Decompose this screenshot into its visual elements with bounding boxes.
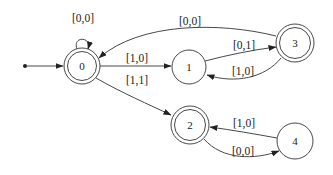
edge-label-3-1: [1,0] — [232, 65, 254, 78]
edge-label-0-2: [1,1] — [126, 74, 148, 87]
state-label-4: 4 — [292, 135, 298, 147]
edge-label-3-0: [0,0] — [179, 15, 201, 28]
edge-0-0 — [76, 39, 88, 49]
edge-label-0-0: [0,0] — [72, 12, 94, 25]
state-label-1: 1 — [186, 61, 192, 73]
state-node-2: 2 — [171, 106, 209, 144]
state-node-3: 3 — [276, 24, 314, 62]
edge-label-2-4: [0,0] — [232, 145, 254, 158]
edge-label-0-1: [1,0] — [126, 52, 148, 65]
state-node-4: 4 — [277, 123, 313, 159]
state-node-1: 1 — [172, 50, 206, 84]
edge-label-4-2: [1,0] — [233, 117, 255, 130]
state-diagram: [0,0] [1,0] [1,1] [0,0] [0,1] [1,0] [1,0… — [0, 0, 333, 175]
start-dot — [23, 64, 27, 68]
state-node-0: 0 — [64, 48, 100, 84]
state-label-2: 2 — [187, 119, 193, 131]
state-label-0: 0 — [79, 60, 85, 72]
state-label-3: 3 — [292, 37, 298, 49]
edge-label-1-3: [0,1] — [233, 39, 255, 52]
